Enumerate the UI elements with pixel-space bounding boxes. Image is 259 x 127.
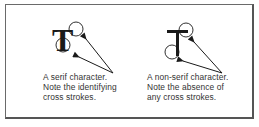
serif-arrow-top xyxy=(86,39,113,73)
serif-t-glyph: T xyxy=(52,22,73,58)
caption-line: A non-serif character. xyxy=(147,72,228,82)
svg-text:T: T xyxy=(52,22,73,58)
caption-line: Note the absence of xyxy=(147,82,228,92)
caption-line: Note the identifying xyxy=(43,82,117,92)
figure-illustration: T xyxy=(0,0,259,127)
caption-line: cross strokes. xyxy=(43,92,117,102)
sans-serif-caption: A non-serif character. Note the absence … xyxy=(147,72,228,102)
caption-line: any cross strokes. xyxy=(147,92,228,102)
serif-arrow-bottom xyxy=(79,57,113,73)
caption-line: A serif character. xyxy=(43,72,117,82)
serif-caption: A serif character. Note the identifying … xyxy=(43,72,117,102)
sans-t-glyph xyxy=(167,30,188,56)
